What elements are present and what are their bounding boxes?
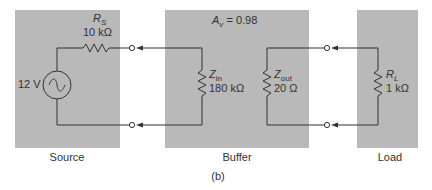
zin-name: Zin bbox=[209, 68, 222, 83]
source-caption: Source bbox=[37, 151, 97, 163]
zin-resistor-icon bbox=[198, 70, 206, 96]
buffer-caption: Buffer bbox=[207, 151, 267, 163]
arrow-left-icon bbox=[136, 46, 143, 51]
zout-resistor-icon bbox=[263, 70, 271, 96]
load-caption: Load bbox=[360, 151, 420, 163]
rl-resistor-icon bbox=[374, 70, 382, 96]
gain-label: Av = 0.98 bbox=[212, 14, 257, 29]
source-voltage: 12 V bbox=[18, 78, 41, 90]
rs-value: 10 kΩ bbox=[83, 26, 112, 38]
arrow-left-icon bbox=[136, 123, 143, 128]
source-resistor-icon bbox=[83, 44, 109, 52]
zout-name: Zout bbox=[274, 68, 292, 83]
zout-value: 20 Ω bbox=[274, 82, 298, 94]
rl-name: RL bbox=[386, 68, 398, 83]
figure-caption: (b) bbox=[198, 170, 238, 182]
rl-value: 1 kΩ bbox=[386, 82, 409, 94]
arrow-left-icon bbox=[331, 123, 338, 128]
arrow-left-icon bbox=[331, 46, 338, 51]
zin-value: 180 kΩ bbox=[209, 82, 244, 94]
rs-name: RS bbox=[93, 12, 106, 27]
